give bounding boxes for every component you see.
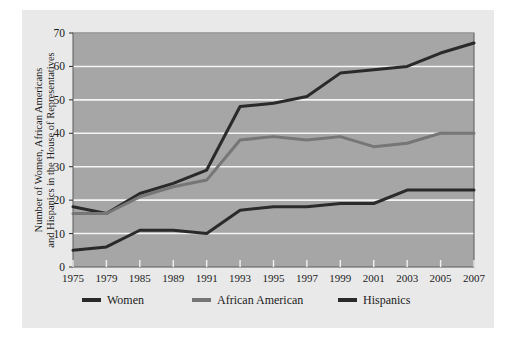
y-axis-tick-label: 70 [54, 27, 66, 39]
legend-label-women: Women [107, 293, 144, 307]
x-axis-tick-label: 2001 [363, 272, 385, 284]
legend-label-hispanics: Hispanics [363, 293, 411, 307]
y-axis-title: Number of Women, African Americans and H… [33, 52, 56, 247]
y-axis: 010203040506070 [54, 27, 74, 273]
chart-svg: 010203040506070 197519791985198919911993… [22, 10, 494, 328]
y-axis-title-line2: and Hispanics in the House of Representa… [45, 52, 56, 247]
legend-swatch-women [82, 298, 101, 302]
legend-swatch-hispanics [338, 298, 357, 302]
x-axis-tick-label: 1979 [95, 272, 118, 284]
legend-label-african-american: African American [217, 293, 303, 307]
x-axis-tick-label: 1985 [129, 272, 152, 284]
x-axis-tick-label: 2003 [396, 272, 419, 284]
figure-card: 010203040506070 197519791985198919911993… [22, 10, 494, 328]
x-axis-tick-label: 1999 [329, 272, 352, 284]
x-axis-tick-label: 2007 [463, 272, 486, 284]
y-axis-title-line1: Number of Women, African Americans [33, 68, 44, 233]
legend-swatch-african-american [192, 298, 211, 302]
chart-legend: WomenAfrican AmericanHispanics [82, 293, 411, 307]
line-chart: 010203040506070 197519791985198919911993… [22, 10, 494, 328]
x-axis-tick-label: 1991 [196, 272, 218, 284]
x-axis-tick-label: 1993 [229, 272, 252, 284]
x-axis-tick-label: 1975 [62, 272, 85, 284]
x-axis-tick-label: 1989 [162, 272, 185, 284]
x-axis-tick-label: 2005 [430, 272, 453, 284]
x-axis-tick-label: 1997 [296, 272, 319, 284]
x-axis-tick-label: 1995 [263, 272, 286, 284]
